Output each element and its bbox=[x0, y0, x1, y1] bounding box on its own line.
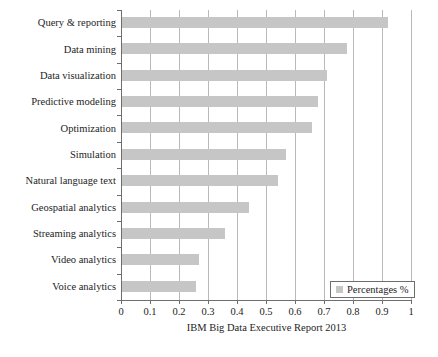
gridline bbox=[411, 10, 412, 300]
category-label: Voice analytics bbox=[52, 281, 116, 292]
bar-row bbox=[121, 36, 411, 62]
bar-row bbox=[121, 89, 411, 115]
legend-label: Percentages % bbox=[347, 284, 409, 295]
category-label: Query & reporting bbox=[38, 17, 116, 28]
legend: Percentages % bbox=[330, 281, 415, 298]
category-label: Data visualization bbox=[40, 70, 116, 81]
x-axis-tick bbox=[208, 300, 209, 304]
bar bbox=[121, 175, 278, 186]
x-axis-tick-label: 0.1 bbox=[135, 306, 165, 318]
category-label: Streaming analytics bbox=[33, 228, 116, 239]
x-axis-tick-label: 1 bbox=[396, 306, 426, 318]
bar bbox=[121, 17, 388, 28]
bar-row bbox=[121, 142, 411, 168]
x-axis-title: IBM Big Data Executive Report 2013 bbox=[121, 322, 412, 333]
x-axis-tick-label: 0.3 bbox=[193, 306, 223, 318]
bar bbox=[121, 254, 199, 265]
bar bbox=[121, 228, 225, 239]
bar bbox=[121, 43, 347, 54]
x-axis-tick-label: 0.6 bbox=[280, 306, 310, 318]
x-axis-tick-label: 0.2 bbox=[164, 306, 194, 318]
bar bbox=[121, 122, 312, 133]
category-axis-labels: Query & reportingData miningData visuali… bbox=[0, 10, 116, 300]
y-axis-line bbox=[121, 10, 122, 301]
category-label: Video analytics bbox=[51, 254, 116, 265]
x-axis-tick bbox=[295, 300, 296, 304]
bar bbox=[121, 149, 286, 160]
x-axis-tick bbox=[353, 300, 354, 304]
x-axis-tick bbox=[324, 300, 325, 304]
bar bbox=[121, 96, 318, 107]
bar-row bbox=[121, 10, 411, 36]
plot-area bbox=[121, 10, 411, 300]
bar bbox=[121, 281, 196, 292]
bar-row bbox=[121, 195, 411, 221]
x-axis-tick-label: 0.8 bbox=[338, 306, 368, 318]
x-axis-tick bbox=[266, 300, 267, 304]
bar bbox=[121, 70, 327, 81]
bar bbox=[121, 202, 249, 213]
legend-swatch-icon bbox=[336, 286, 343, 293]
x-axis-tick-label: 0.7 bbox=[309, 306, 339, 318]
x-axis-tick bbox=[382, 300, 383, 304]
x-axis-tick-label: 0.9 bbox=[367, 306, 397, 318]
x-axis-tick bbox=[237, 300, 238, 304]
bar-row bbox=[121, 221, 411, 247]
x-axis-tick-label: 0 bbox=[106, 306, 136, 318]
category-label: Geospatial analytics bbox=[31, 202, 116, 213]
category-label: Natural language text bbox=[26, 175, 116, 186]
category-label: Optimization bbox=[61, 123, 116, 134]
x-axis-tick bbox=[150, 300, 151, 304]
category-label: Simulation bbox=[70, 149, 116, 160]
x-axis-tick bbox=[411, 300, 412, 304]
bar-chart: Query & reportingData miningData visuali… bbox=[0, 0, 438, 357]
bar-row bbox=[121, 115, 411, 141]
bar-row bbox=[121, 63, 411, 89]
category-label: Data mining bbox=[64, 44, 116, 55]
bar-row bbox=[121, 168, 411, 194]
x-axis-tick bbox=[179, 300, 180, 304]
x-axis-tick bbox=[121, 300, 122, 304]
x-axis-tick-label: 0.5 bbox=[251, 306, 281, 318]
category-label: Predictive modeling bbox=[31, 96, 116, 107]
x-axis-tick-label: 0.4 bbox=[222, 306, 252, 318]
bar-row bbox=[121, 247, 411, 273]
